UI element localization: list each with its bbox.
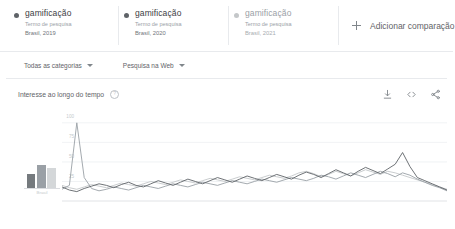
region-bar-thumbnail: Brasil [22, 157, 62, 195]
chart-actions [382, 89, 441, 100]
series-line-brasil-2021 [62, 170, 447, 190]
trend-plot-svg [62, 113, 447, 211]
term-card-2020[interactable]: gamificação Termo de pesquisa Brasil, 20… [118, 0, 228, 51]
add-comparison-label: Adicionar comparação [370, 21, 455, 31]
chart-gridlines [62, 123, 447, 182]
thumbnail-bars [27, 165, 56, 188]
chevron-down-icon [179, 64, 185, 67]
series-line-brasil-2019 [62, 153, 447, 192]
term-title: gamificação [245, 9, 291, 19]
term-title: gamificação [135, 9, 181, 19]
term-card-2019[interactable]: gamificação Termo de pesquisa Brasil, 20… [8, 0, 118, 51]
interest-over-time-header: Interesse ao longo do tempo [0, 79, 453, 109]
search-type-filter-label: Pesquisa na Web [123, 62, 174, 69]
add-comparison-button[interactable]: Adicionar comparação [338, 0, 455, 51]
term-card-text: gamificação Termo de pesquisa Brasil, 20… [25, 9, 71, 37]
term-subtitle: Termo de pesquisa [135, 21, 181, 27]
comparison-cards-row: gamificação Termo de pesquisa Brasil, 20… [0, 0, 453, 52]
series-dot-2020 [124, 13, 129, 18]
thumbnail-caption: Brasil [37, 190, 48, 195]
download-icon[interactable] [382, 89, 393, 100]
section-title: Interesse ao longo do tempo [18, 91, 104, 98]
term-title: gamificação [25, 9, 71, 19]
term-card-2021[interactable]: gamificação Termo de pesquisa Brasil, 20… [228, 0, 338, 51]
series-dot-2019 [14, 13, 19, 18]
category-filter-dropdown[interactable]: Todas as categorias [24, 62, 93, 69]
chevron-down-icon [87, 64, 93, 67]
term-card-text: gamificação Termo de pesquisa Brasil, 20… [245, 9, 291, 37]
term-region-year: Brasil, 2021 [245, 30, 291, 37]
category-filter-label: Todas as categorias [24, 62, 82, 69]
interest-line-chart[interactable] [62, 113, 447, 211]
series-dot-2021 [234, 13, 239, 18]
plus-icon [352, 21, 361, 30]
term-subtitle: Termo de pesquisa [245, 21, 291, 27]
search-type-filter-dropdown[interactable]: Pesquisa na Web [123, 62, 185, 69]
share-icon[interactable] [430, 89, 441, 100]
series-line-brasil-2020 [62, 123, 447, 191]
term-region-year: Brasil, 2020 [135, 30, 181, 37]
embed-icon[interactable] [406, 89, 417, 100]
term-subtitle: Termo de pesquisa [25, 21, 71, 27]
chart-body: Brasil 100 75 50 25 [0, 109, 453, 221]
help-icon[interactable] [110, 90, 119, 99]
term-region-year: Brasil, 2019 [25, 30, 71, 37]
filters-row: Todas as categorias Pesquisa na Web [6, 52, 447, 79]
term-card-text: gamificação Termo de pesquisa Brasil, 20… [135, 9, 181, 37]
